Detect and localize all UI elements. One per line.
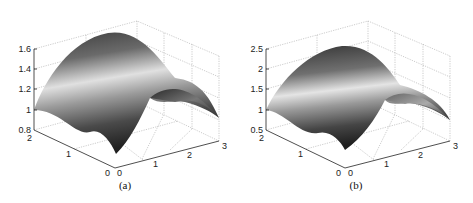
- y-tick: 0: [105, 168, 110, 178]
- z-tick: 1.4: [18, 64, 31, 74]
- caption-a: (a): [119, 179, 132, 192]
- z-tick: 2.5: [250, 44, 263, 54]
- x-tick: 2: [418, 150, 423, 160]
- x-tick: 3: [222, 141, 227, 151]
- x-tick: 0: [117, 168, 122, 178]
- z-tick: 1.6: [18, 44, 31, 54]
- y-tick: 0: [336, 168, 341, 178]
- surface-plot-b: 2.5 2 1.5 1 0.5 2 1 0 0 1 2 3 (b): [236, 0, 473, 203]
- x-tick: 3: [453, 141, 458, 151]
- surface-a: [34, 32, 219, 154]
- surface-plot-a: 1.6 1.4 1.2 1 0.8 2 1 0 0 1 2 3 (a): [0, 0, 236, 203]
- z-tick: 1.2: [18, 84, 31, 94]
- x-tick: 0: [348, 168, 353, 178]
- x-tick: 1: [384, 159, 389, 169]
- z-tick: 1: [26, 105, 31, 115]
- x-tick: 2: [187, 150, 192, 160]
- y-tick: 2: [259, 133, 264, 143]
- z-tick: 1: [258, 105, 263, 115]
- y-tick: 1: [66, 149, 71, 159]
- z-tick: 1.5: [250, 84, 263, 94]
- y-tick: 1: [298, 149, 303, 159]
- surface-b: [266, 46, 450, 150]
- x-tick: 1: [153, 159, 158, 169]
- y-tick: 2: [27, 133, 32, 143]
- z-tick: 2: [258, 64, 263, 74]
- caption-b: (b): [350, 179, 363, 192]
